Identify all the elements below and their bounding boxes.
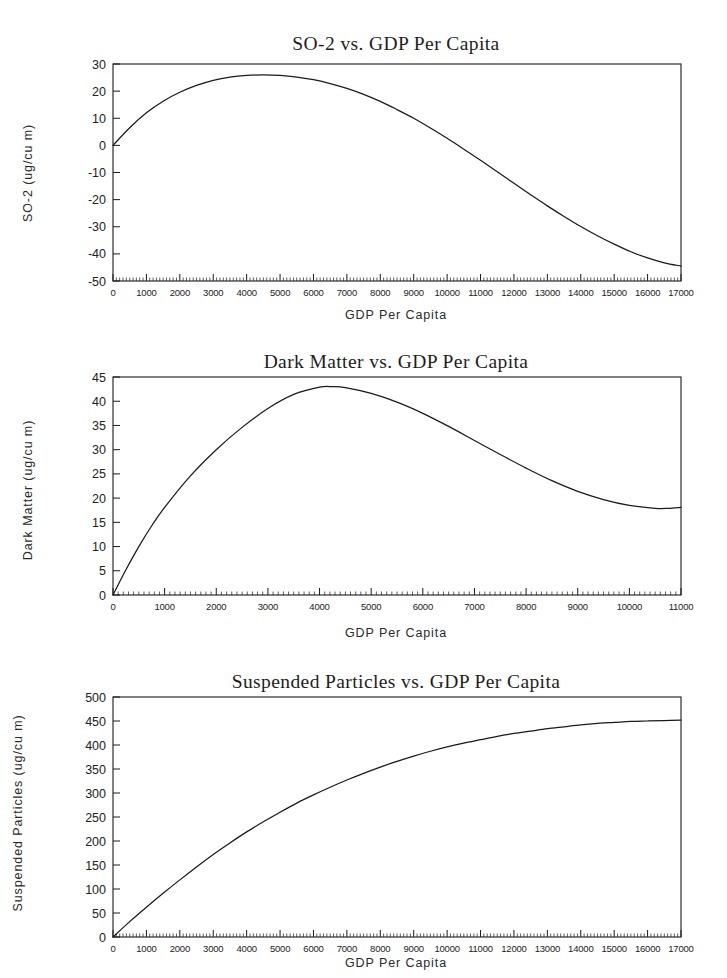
suspended-particles-ytick-label: 150 <box>85 859 106 873</box>
suspended-particles-xtick-label: 14000 <box>568 943 593 954</box>
dark-matter-ytick-label: 30 <box>92 443 106 457</box>
so2-xtick-label: 9000 <box>404 287 424 298</box>
suspended-particles-xtick-label: 4000 <box>236 943 256 954</box>
so2-xtick-label: 8000 <box>370 287 390 298</box>
so2-xtick-label: 2000 <box>170 287 190 298</box>
suspended-particles-xtick-label: 16000 <box>635 943 660 954</box>
chart-so2-ylabel: SO-2 (ug/cu m) <box>21 124 35 222</box>
suspended-particles-ytick-label: 300 <box>85 787 106 801</box>
chart-so2-svg: SO-2 vs. GDP Per Capita SO-2 (ug/cu m) G… <box>0 0 727 330</box>
chart-suspended-particles-series-line <box>113 720 681 937</box>
so2-ytick-label: -20 <box>88 193 106 207</box>
suspended-particles-xtick-label: 5000 <box>270 943 290 954</box>
dark-matter-ytick-label: 0 <box>99 589 106 603</box>
suspended-particles-ytick-label: 500 <box>85 691 106 705</box>
so2-xtick-label: 15000 <box>601 287 626 298</box>
dark-matter-xtick-label: 7000 <box>464 601 484 612</box>
chart-dark-matter-xlabel: GDP Per Capita <box>345 626 447 640</box>
chart-dark-matter-ylabel: Dark Matter (ug/cu m) <box>21 420 35 560</box>
dark-matter-ytick-label: 5 <box>99 564 106 578</box>
chart-suspended-particles-axes: 0501001502002503003504004505000100020003… <box>85 691 694 955</box>
so2-xtick-label: 0 <box>110 287 115 298</box>
so2-ytick-label: 20 <box>92 85 106 99</box>
so2-xtick-label: 5000 <box>270 287 290 298</box>
suspended-particles-xtick-label: 0 <box>110 943 115 954</box>
suspended-particles-ytick-label: 250 <box>85 811 106 825</box>
dark-matter-ytick-label: 25 <box>92 467 106 481</box>
suspended-particles-ytick-label: 50 <box>92 907 106 921</box>
so2-xtick-label: 1000 <box>136 287 156 298</box>
suspended-particles-xtick-label: 17000 <box>668 943 693 954</box>
chart-dark-matter-title: Dark Matter vs. GDP Per Capita <box>264 351 529 372</box>
so2-xtick-label: 16000 <box>635 287 660 298</box>
so2-xtick-label: 4000 <box>236 287 256 298</box>
figure-page: SO-2 vs. GDP Per Capita SO-2 (ug/cu m) G… <box>0 0 727 978</box>
suspended-particles-ytick-label: 0 <box>99 931 106 945</box>
suspended-particles-xtick-label: 11000 <box>468 943 493 954</box>
chart-dark-matter-series-line <box>113 386 681 595</box>
suspended-particles-xtick-label: 15000 <box>601 943 626 954</box>
dark-matter-ytick-label: 45 <box>92 371 106 385</box>
suspended-particles-xtick-label: 1000 <box>136 943 156 954</box>
chart-suspended-particles-svg: Suspended Particles vs. GDP Per Capita S… <box>0 648 727 978</box>
suspended-particles-xtick-label: 9000 <box>404 943 424 954</box>
chart-so2-xlabel: GDP Per Capita <box>345 308 447 322</box>
suspended-particles-xtick-label: 12000 <box>501 943 526 954</box>
dark-matter-xtick-label: 2000 <box>206 601 226 612</box>
chart-suspended-particles-title: Suspended Particles vs. GDP Per Capita <box>232 671 561 692</box>
dark-matter-ytick-label: 10 <box>92 540 106 554</box>
suspended-particles-ytick-label: 400 <box>85 739 106 753</box>
suspended-particles-xtick-label: 2000 <box>170 943 190 954</box>
so2-ytick-label: -50 <box>88 275 106 289</box>
chart-dark-matter: Dark Matter vs. GDP Per Capita Dark Matt… <box>0 330 727 648</box>
suspended-particles-xtick-label: 13000 <box>535 943 560 954</box>
dark-matter-xtick-label: 9000 <box>568 601 588 612</box>
dark-matter-xtick-label: 0 <box>110 601 115 612</box>
so2-xtick-label: 11000 <box>468 287 493 298</box>
so2-ytick-label: 30 <box>92 58 106 72</box>
dark-matter-xtick-label: 6000 <box>413 601 433 612</box>
dark-matter-ytick-label: 20 <box>92 492 106 506</box>
so2-ytick-label: -40 <box>88 247 106 261</box>
suspended-particles-xtick-label: 7000 <box>337 943 357 954</box>
chart-suspended-particles-ylabel: Suspended Particles (ug/cu m) <box>11 714 25 911</box>
so2-ytick-label: 0 <box>99 139 106 153</box>
dark-matter-ytick-label: 15 <box>92 516 106 530</box>
so2-xtick-label: 12000 <box>501 287 526 298</box>
so2-xtick-label: 6000 <box>303 287 323 298</box>
suspended-particles-xtick-label: 6000 <box>303 943 323 954</box>
suspended-particles-xtick-label: 10000 <box>434 943 459 954</box>
chart-dark-matter-svg: Dark Matter vs. GDP Per Capita Dark Matt… <box>0 330 727 648</box>
suspended-particles-ytick-label: 100 <box>85 883 106 897</box>
so2-xtick-label: 10000 <box>434 287 459 298</box>
suspended-particles-ytick-label: 200 <box>85 835 106 849</box>
dark-matter-xtick-label: 8000 <box>516 601 536 612</box>
so2-xtick-label: 17000 <box>668 287 693 298</box>
suspended-particles-xtick-label: 3000 <box>203 943 223 954</box>
suspended-particles-ytick-label: 350 <box>85 763 106 777</box>
dark-matter-ytick-label: 40 <box>92 395 106 409</box>
suspended-particles-xtick-label: 8000 <box>370 943 390 954</box>
chart-suspended-particles-xlabel: GDP Per Capita <box>345 956 447 970</box>
so2-xtick-label: 3000 <box>203 287 223 298</box>
chart-so2: SO-2 vs. GDP Per Capita SO-2 (ug/cu m) G… <box>0 0 727 330</box>
so2-xtick-label: 7000 <box>337 287 357 298</box>
suspended-particles-ytick-label: 450 <box>85 715 106 729</box>
dark-matter-xtick-label: 4000 <box>309 601 329 612</box>
dark-matter-xtick-label: 3000 <box>258 601 278 612</box>
chart-suspended-particles: Suspended Particles vs. GDP Per Capita S… <box>0 648 727 978</box>
so2-ytick-label: -10 <box>88 166 106 180</box>
dark-matter-xtick-label: 11000 <box>669 601 694 612</box>
chart-dark-matter-axes: 0510152025303540450100020003000400050006… <box>92 371 693 613</box>
chart-so2-series-line <box>113 75 681 266</box>
so2-ytick-label: 10 <box>92 112 106 126</box>
dark-matter-ytick-label: 35 <box>92 419 106 433</box>
dark-matter-xtick-label: 10000 <box>617 601 642 612</box>
so2-xtick-label: 13000 <box>535 287 560 298</box>
chart-so2-title: SO-2 vs. GDP Per Capita <box>292 33 499 54</box>
so2-ytick-label: -30 <box>88 220 106 234</box>
so2-xtick-label: 14000 <box>568 287 593 298</box>
chart-so2-axes: -50-40-30-20-100102030010002000300040005… <box>88 58 694 299</box>
dark-matter-xtick-label: 5000 <box>361 601 381 612</box>
dark-matter-xtick-label: 1000 <box>154 601 174 612</box>
